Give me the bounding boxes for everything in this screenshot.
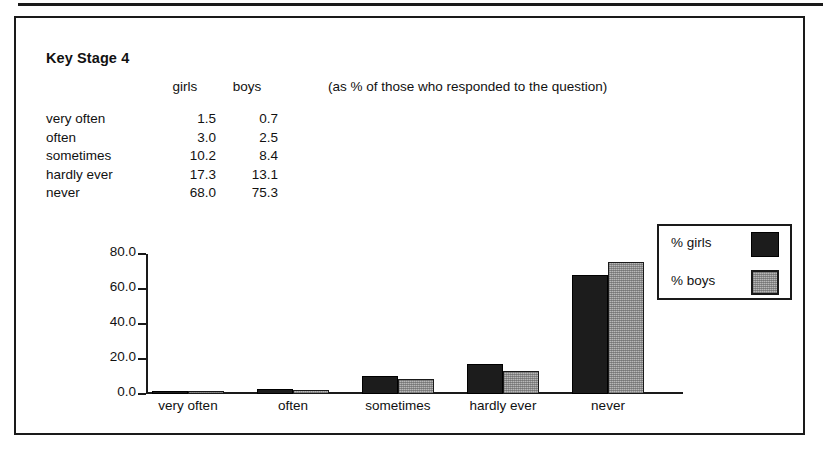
x-axis-label: sometimes <box>362 398 434 413</box>
y-axis-tick-label: 80.0 <box>110 244 136 259</box>
bar-girls <box>362 376 398 394</box>
y-axis-tick-mark <box>138 253 146 255</box>
bar-boys <box>293 390 329 394</box>
column-header-girls: girls <box>154 75 216 106</box>
x-axis-label: very often <box>152 398 224 413</box>
bar-group <box>152 254 224 394</box>
y-axis-tick-mark <box>138 393 146 395</box>
y-axis-tick-mark <box>138 323 146 325</box>
plot-area <box>146 254 671 394</box>
bar-group <box>572 254 644 394</box>
figure-frame: Key Stage 4 girls boys very often 1.5 0.… <box>14 16 805 435</box>
table-row: hardly ever 17.3 13.1 <box>46 166 278 185</box>
chart-legend: % girls% boys <box>657 224 792 300</box>
x-axis-label: often <box>257 398 329 413</box>
bar-group <box>257 254 329 394</box>
bar-boys <box>188 391 224 394</box>
legend-item: % boys <box>659 264 790 302</box>
legend-label: % girls <box>671 235 712 250</box>
table-header-row: girls boys <box>46 75 278 106</box>
bar-girls <box>152 391 188 394</box>
cell-boys: 8.4 <box>216 147 278 166</box>
light-hatched-swatch <box>751 270 779 295</box>
y-axis-tick-label: 0.0 <box>117 384 136 399</box>
cell-category: never <box>46 184 154 203</box>
cell-girls: 3.0 <box>154 129 216 148</box>
data-table: girls boys very often 1.5 0.7 often 3.0 … <box>46 75 278 203</box>
cell-boys: 13.1 <box>216 166 278 185</box>
cell-boys: 2.5 <box>216 129 278 148</box>
top-horizontal-rule <box>18 3 823 6</box>
table-row: often 3.0 2.5 <box>46 129 278 148</box>
cell-girls: 1.5 <box>154 106 216 129</box>
y-axis-tick-label: 40.0 <box>110 314 136 329</box>
cell-category: hardly ever <box>46 166 154 185</box>
x-axis-label: hardly ever <box>467 398 539 413</box>
bar-boys <box>503 371 539 394</box>
table-row: sometimes 10.2 8.4 <box>46 147 278 166</box>
cell-girls: 68.0 <box>154 184 216 203</box>
column-header-category <box>46 75 154 106</box>
y-axis-tick-label: 20.0 <box>110 349 136 364</box>
table-note: (as % of those who responded to the ques… <box>328 79 607 94</box>
page-title: Key Stage 4 <box>46 50 129 66</box>
legend-item: % girls <box>659 226 790 264</box>
cell-girls: 10.2 <box>154 147 216 166</box>
table-row: never 68.0 75.3 <box>46 184 278 203</box>
y-axis-tick-mark <box>138 358 146 360</box>
cell-boys: 0.7 <box>216 106 278 129</box>
bar-group <box>467 254 539 394</box>
x-axis-label: never <box>572 398 644 413</box>
column-header-boys: boys <box>216 75 278 106</box>
cell-category: sometimes <box>46 147 154 166</box>
y-axis-tick-mark <box>138 288 146 290</box>
dark-solid-swatch <box>751 232 779 257</box>
bar-group <box>362 254 434 394</box>
bar-girls <box>257 389 293 394</box>
bar-girls <box>572 275 608 394</box>
cell-category: often <box>46 129 154 148</box>
cell-category: very often <box>46 106 154 129</box>
legend-label: % boys <box>671 273 715 288</box>
bar-girls <box>467 364 503 394</box>
cell-girls: 17.3 <box>154 166 216 185</box>
bar-boys <box>608 262 644 394</box>
table-row: very often 1.5 0.7 <box>46 106 278 129</box>
bar-boys <box>398 379 434 394</box>
cell-boys: 75.3 <box>216 184 278 203</box>
y-axis-tick-label: 60.0 <box>110 279 136 294</box>
